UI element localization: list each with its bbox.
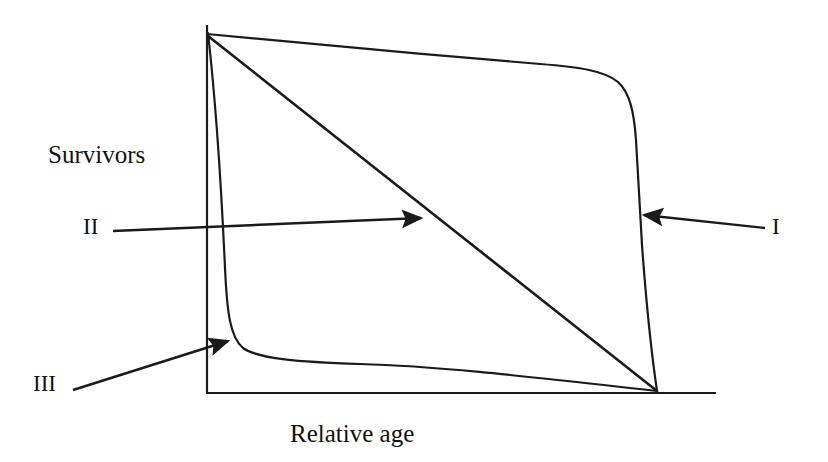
- arrow-line-type-iii: [73, 341, 228, 390]
- survivorship-curves-diagram: [0, 0, 828, 462]
- y-axis-label: Survivors: [48, 142, 145, 167]
- curve-type-ii: [208, 36, 657, 391]
- arrow-line-type-ii: [113, 218, 421, 231]
- curve-label-type-iii: III: [33, 372, 56, 395]
- curve-label-type-ii: II: [83, 215, 98, 238]
- annotation-arrows-group: [73, 215, 765, 390]
- figure-canvas: Survivors Relative age I II III: [0, 0, 828, 462]
- x-axis-label: Relative age: [290, 421, 414, 446]
- arrow-line-type-i: [644, 215, 765, 228]
- curve-label-type-i: I: [772, 215, 780, 238]
